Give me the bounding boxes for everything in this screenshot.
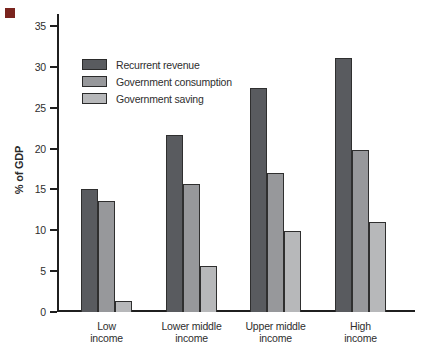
y-tick-mark (50, 107, 57, 109)
bar-government-consumption (267, 173, 284, 312)
bar-recurrent-revenue (166, 135, 183, 312)
y-tick-label: 15 (20, 183, 46, 195)
bar-government-saving (369, 222, 386, 312)
y-tick-mark (50, 66, 57, 68)
bar-government-consumption (183, 184, 200, 312)
corner-marker (5, 8, 15, 18)
legend-item-government-saving: Government saving (82, 90, 232, 107)
y-tick-mark (50, 148, 57, 150)
legend-label: Recurrent revenue (116, 59, 200, 71)
y-axis-line (57, 14, 59, 312)
legend-label: Government consumption (116, 76, 232, 88)
legend-label: Government saving (116, 93, 204, 105)
bar-government-saving (200, 266, 217, 312)
y-tick-mark (50, 311, 57, 313)
bar-chart-figure: % of GDP 05101520253035 LowincomeLower m… (0, 0, 429, 352)
y-tick-label: 35 (20, 20, 46, 32)
x-axis-label: Lower middleincome (144, 320, 240, 344)
legend-swatch-recurrent-revenue (82, 59, 107, 70)
x-axis-label: Upper middleincome (228, 320, 324, 344)
y-tick-mark (50, 270, 57, 272)
legend-item-recurrent-revenue: Recurrent revenue (82, 56, 232, 73)
y-axis-label: % of GDP (13, 115, 27, 225)
y-tick-label: 10 (20, 224, 46, 236)
bar-government-consumption (352, 150, 369, 312)
y-tick-label: 0 (20, 306, 46, 318)
y-tick-mark (50, 25, 57, 27)
legend-swatch-government-saving (82, 93, 107, 104)
y-tick-label: 20 (20, 143, 46, 155)
legend: Recurrent revenue Government consumption… (82, 56, 232, 107)
y-tick-mark (50, 188, 57, 190)
y-tick-label: 30 (20, 61, 46, 73)
y-tick-mark (50, 229, 57, 231)
y-tick-label: 5 (20, 265, 46, 277)
bar-government-saving (284, 231, 301, 312)
x-axis-label: Highincome (313, 320, 409, 344)
bar-recurrent-revenue (81, 189, 98, 312)
bar-government-consumption (98, 201, 115, 312)
legend-swatch-government-consumption (82, 76, 107, 87)
bar-government-saving (115, 301, 132, 312)
bar-recurrent-revenue (250, 88, 267, 312)
bar-recurrent-revenue (335, 58, 352, 312)
y-tick-label: 25 (20, 102, 46, 114)
x-axis-label: Lowincome (59, 320, 155, 344)
legend-item-government-consumption: Government consumption (82, 73, 232, 90)
